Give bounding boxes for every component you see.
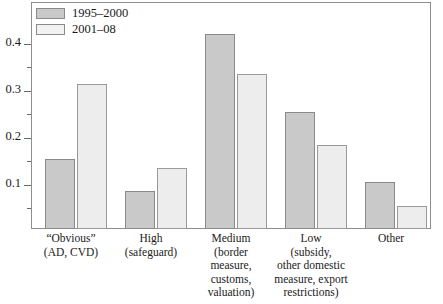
- x-label-line: (border: [191, 246, 271, 260]
- x-label-line: valuation): [191, 286, 271, 300]
- y-tick-mark: [24, 44, 31, 45]
- x-label-line: (safeguard): [111, 246, 191, 260]
- legend-swatch-icon: [36, 8, 65, 19]
- bar-other-1995-2000: [365, 182, 395, 229]
- bar-group-low: [271, 2, 351, 229]
- x-label-line: measure,: [191, 259, 271, 273]
- chart-legend: 1995–2000 2001–08: [36, 6, 128, 36]
- x-label-line: Other: [351, 232, 431, 246]
- y-tick-label: 0.1: [5, 177, 21, 190]
- legend-swatch-icon: [36, 24, 65, 35]
- bar-low-1995-2000: [285, 112, 315, 229]
- x-label-line: “Obvious”: [31, 232, 111, 246]
- x-label-other: Other: [351, 232, 431, 246]
- bar-other-2001-08: [397, 206, 427, 230]
- y-tick-mark: [24, 138, 31, 139]
- x-label-line: High: [111, 232, 191, 246]
- bar-group-medium: [191, 2, 271, 229]
- x-label-high: High (safeguard): [111, 232, 191, 259]
- bar-low-2001-08: [317, 145, 347, 230]
- x-label-line: (AD, CVD): [31, 246, 111, 260]
- x-label-line: customs,: [191, 273, 271, 287]
- bar-group-obvious: [31, 2, 111, 229]
- y-tick-label: 0.4: [5, 36, 21, 49]
- x-label-low: Low (subsidy, other domestic measure, ex…: [265, 232, 357, 300]
- x-label-line: (subsidy,: [265, 246, 357, 260]
- bar-obvious-1995-2000: [45, 159, 75, 229]
- bar-medium-2001-08: [237, 74, 267, 229]
- x-label-line: Low: [265, 232, 357, 246]
- bar-high-1995-2000: [125, 191, 155, 229]
- x-label-line: measure, export: [265, 273, 357, 287]
- bar-high-2001-08: [157, 168, 187, 229]
- legend-item-2001-08: 2001–08: [36, 22, 128, 36]
- y-tick-label: 0.3: [5, 83, 21, 96]
- y-tick-mark: [24, 91, 31, 92]
- legend-label: 2001–08: [72, 23, 116, 36]
- x-label-obvious: “Obvious” (AD, CVD): [31, 232, 111, 259]
- legend-label: 1995–2000: [72, 7, 128, 20]
- legend-item-1995-2000: 1995–2000: [36, 6, 128, 20]
- x-label-medium: Medium (border measure, customs, valuati…: [191, 232, 271, 300]
- bar-group-high: [111, 2, 191, 229]
- bar-group-other: [351, 2, 431, 229]
- bar-chart: 0.4 0.3 0.2 0.1: [0, 0, 443, 304]
- y-axis: 0.4 0.3 0.2 0.1: [0, 0, 31, 231]
- y-tick-mark: [24, 185, 31, 186]
- x-label-line: restrictions): [265, 286, 357, 300]
- bar-obvious-2001-08: [77, 84, 107, 230]
- x-axis-labels: “Obvious” (AD, CVD) High (safeguard) Med…: [31, 232, 431, 304]
- y-tick-label: 0.2: [5, 130, 21, 143]
- bar-medium-1995-2000: [205, 34, 235, 229]
- x-label-line: Medium: [191, 232, 271, 246]
- x-label-line: other domestic: [265, 259, 357, 273]
- bars-layer: [31, 2, 431, 229]
